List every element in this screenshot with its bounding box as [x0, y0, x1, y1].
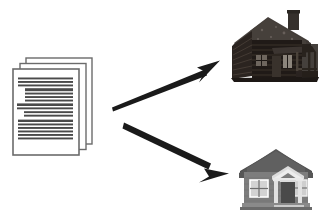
modern-house-layer [0, 0, 331, 216]
house-door-icon [281, 181, 295, 205]
house-window-left-icon [250, 180, 268, 197]
house-ground-shadow [240, 207, 312, 210]
house-icon [239, 149, 313, 210]
diagram-canvas: Document specifications produce two diff… [0, 0, 331, 216]
